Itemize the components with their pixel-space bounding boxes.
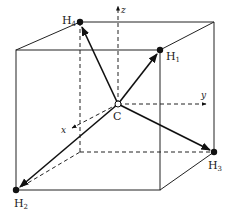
- bonds: [20, 27, 210, 187]
- label-h3: H3: [208, 159, 222, 173]
- x-axis-label: x: [61, 125, 66, 135]
- label-c: C: [113, 110, 121, 123]
- atom-h1: [157, 47, 163, 53]
- bond-c-h3: [118, 104, 210, 150]
- z-axis-label: z: [120, 5, 126, 15]
- atom-h4: [77, 19, 83, 25]
- y-axis: y: [118, 90, 207, 104]
- atom-h3: [211, 149, 217, 155]
- atom-h2: [13, 187, 19, 193]
- cube-back-face: [80, 22, 214, 152]
- label-h4: H4: [62, 14, 77, 28]
- bond-c-h4: [82, 27, 118, 104]
- atom-c: [115, 101, 121, 107]
- x-axis: x: [61, 104, 118, 135]
- y-axis-label: y: [200, 90, 207, 100]
- cube-front-face: [16, 50, 160, 190]
- methane-cube-diagram: z y x H4 H1 H3 H2 C: [0, 0, 230, 214]
- label-h2: H2: [14, 197, 28, 211]
- z-axis: z: [118, 5, 126, 104]
- label-h1: H1: [166, 50, 180, 64]
- bond-c-h1: [118, 54, 157, 104]
- bond-c-h2: [20, 104, 118, 187]
